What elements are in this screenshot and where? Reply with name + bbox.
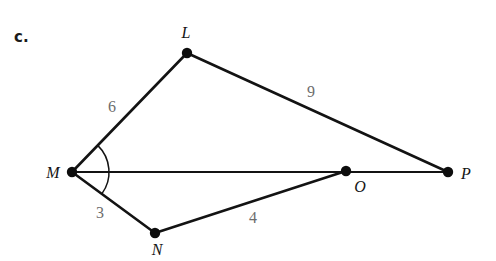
vertex-dot-o (341, 166, 351, 176)
segments-group (72, 53, 448, 233)
vertex-label-o: O (354, 179, 366, 195)
vertex-label-n: N (152, 242, 163, 258)
segment-LP (187, 53, 448, 172)
vertex-dot-p (443, 167, 453, 177)
vertex-dot-m (67, 167, 77, 177)
vertex-label-l: L (182, 25, 191, 41)
geometry-figure: c. LMNOP6934 (0, 0, 496, 261)
edge-label-mn: 3 (96, 205, 104, 221)
edge-label-no: 4 (249, 210, 257, 226)
vertex-dot-n (150, 228, 160, 238)
angle-arc-LMN (98, 145, 109, 194)
edge-label-ml: 6 (108, 99, 116, 115)
vertex-dot-l (182, 48, 192, 58)
angle-arc-group (98, 145, 109, 194)
problem-label: c. (14, 30, 29, 45)
edge-label-lp: 9 (307, 84, 315, 100)
segment-ML (72, 53, 187, 172)
segment-MN (72, 172, 155, 233)
figure-canvas (0, 0, 496, 261)
vertex-label-p: P (461, 166, 471, 182)
vertex-label-m: M (46, 165, 59, 181)
